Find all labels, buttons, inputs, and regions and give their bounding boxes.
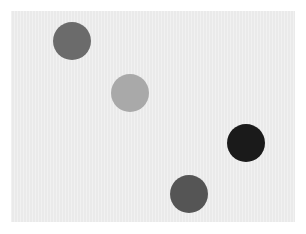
- circle-light-gray: [111, 74, 149, 112]
- circle-charcoal: [170, 175, 208, 213]
- circle-black: [227, 124, 265, 162]
- canvas: [0, 0, 306, 234]
- circle-dark-gray: [53, 22, 91, 60]
